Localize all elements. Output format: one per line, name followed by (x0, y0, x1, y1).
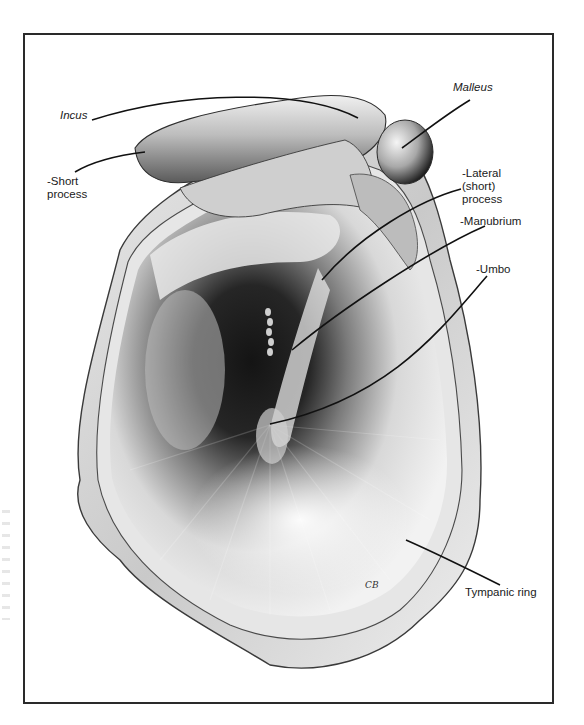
label-lateral-process: -Lateral (short) process (462, 167, 502, 206)
label-tympanic-ring: Tympanic ring (465, 586, 537, 599)
label-short-process: -Short process (47, 175, 87, 201)
label-manubrium: -Manubrium (460, 215, 521, 228)
label-malleus: Malleus (453, 81, 493, 94)
malleus-head (377, 120, 433, 184)
label-incus: Incus (60, 109, 88, 122)
artist-signature: CB (365, 580, 379, 590)
label-umbo: -Umbo (476, 263, 511, 276)
leader-line-short-process (75, 152, 145, 172)
